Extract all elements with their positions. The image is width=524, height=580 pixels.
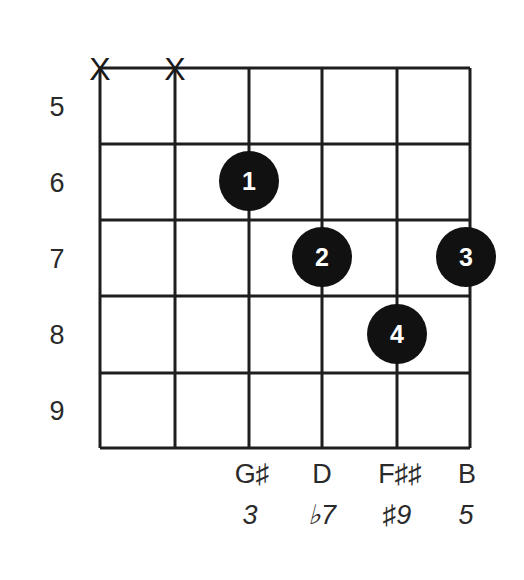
note-name-string-6: B <box>458 459 476 489</box>
fret-label-9: 9 <box>49 396 64 426</box>
finger-number: 2 <box>315 243 329 271</box>
finger-dot-3: 3 <box>436 227 496 287</box>
finger-number: 3 <box>459 243 473 271</box>
interval-string-3: 3 <box>242 500 257 530</box>
finger-dot-2: 2 <box>292 227 352 287</box>
interval-string-5: ♯9 <box>383 500 412 530</box>
fret-label-7: 7 <box>49 244 64 274</box>
note-name-string-4: D <box>312 459 332 489</box>
chord-diagram: X X 5 6 7 8 9 1 2 3 4 G♯ D F♯♯ B 3 ♭7 ♯9… <box>0 0 524 580</box>
fret-label-6: 6 <box>49 168 64 198</box>
fret-label-8: 8 <box>49 320 64 350</box>
finger-dot-1: 1 <box>219 151 279 211</box>
note-name-string-5: F♯♯ <box>378 459 422 489</box>
fretboard-grid <box>100 68 470 448</box>
note-name-string-3: G♯ <box>235 459 270 489</box>
mute-marker-string-1: X <box>89 51 110 87</box>
finger-dot-4: 4 <box>367 304 427 364</box>
mute-marker-string-2: X <box>164 51 185 87</box>
interval-string-4: ♭7 <box>308 500 337 530</box>
interval-string-6: 5 <box>458 500 474 530</box>
finger-number: 4 <box>390 320 404 348</box>
finger-number: 1 <box>242 167 256 195</box>
fret-label-5: 5 <box>49 92 64 122</box>
